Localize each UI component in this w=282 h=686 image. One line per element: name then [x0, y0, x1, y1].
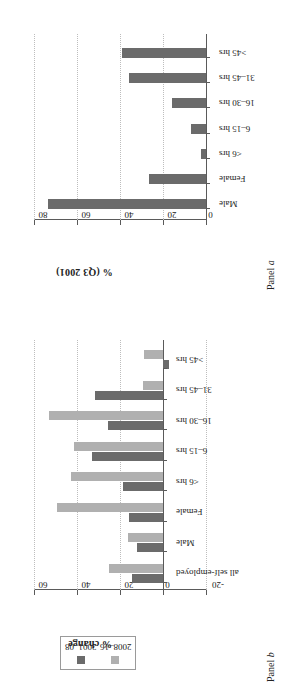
- x-tick: [163, 430, 167, 431]
- x-axis-label: 16–30 hrs: [176, 416, 212, 426]
- bar-group: 6–15 hrs: [34, 108, 206, 133]
- bar-group: all self-employed: [34, 553, 206, 584]
- x-axis-label: >45 hrs: [176, 355, 203, 365]
- bar-group: 16–30 hrs: [34, 83, 206, 108]
- bar-group: <6 hrs: [34, 134, 206, 159]
- y-tick: [34, 220, 35, 225]
- bar: [143, 381, 163, 390]
- x-axis-label: <6 hrs: [176, 477, 199, 487]
- bar: [122, 48, 206, 58]
- bar: [48, 199, 206, 209]
- bar: [144, 351, 163, 360]
- panel-a-y-axis-label: % (Q3 2001): [56, 267, 113, 278]
- panel-b-tag-prefix: Panel: [265, 657, 276, 682]
- bar: [129, 73, 206, 83]
- bar-group: 6–15 hrs: [34, 431, 206, 462]
- bar-group: 16–30 hrs: [34, 400, 206, 431]
- x-tick: [163, 399, 167, 400]
- x-axis-label: 31–45 hrs: [176, 386, 212, 396]
- x-axis-label: 6–15 hrs: [176, 447, 207, 457]
- y-tick: [34, 590, 35, 595]
- x-axis-label: Female: [219, 174, 246, 184]
- x-axis-label: >45 hrs: [219, 48, 246, 58]
- panel-b-plot-area: -200204060 all self-employedMaleFemale<6…: [34, 340, 206, 590]
- bar: [92, 452, 163, 461]
- x-tick: [163, 582, 167, 583]
- bar: [57, 503, 163, 512]
- panel-a-plot-area: 020406080 MaleFemale<6 hrs6–15 hrs16–30 …: [34, 34, 206, 220]
- x-axis-label: <6 hrs: [219, 149, 242, 159]
- panel-a-tag: Panel a: [265, 260, 276, 290]
- bar-group: >45 hrs: [34, 33, 206, 58]
- bar-group: Male: [34, 522, 206, 553]
- y-tick: [120, 590, 121, 595]
- bar: [95, 391, 163, 400]
- x-tick: [163, 460, 167, 461]
- x-axis-label: all self-employed: [176, 569, 239, 579]
- figure-container: 2001–08 2008–16 % change -200204060 all …: [0, 0, 282, 686]
- bar: [74, 442, 163, 451]
- panel-b-y-axis-label: % change: [68, 639, 112, 650]
- bar: [132, 574, 163, 583]
- x-tick: [206, 183, 210, 184]
- zero-axis: [206, 34, 207, 220]
- bar: [49, 412, 163, 421]
- x-tick: [163, 552, 167, 553]
- panel-a-tag-prefix: Panel: [265, 265, 276, 290]
- bar: [149, 174, 206, 184]
- y-tick-label: 0: [208, 210, 213, 220]
- x-tick: [206, 158, 210, 159]
- x-tick: [206, 133, 210, 134]
- bar: [108, 422, 163, 431]
- bar: [172, 98, 206, 108]
- x-axis-label: 31–45 hrs: [219, 73, 255, 83]
- bar-group: Male: [34, 184, 206, 209]
- legend-swatch-2001-08: [77, 656, 85, 664]
- bar: [109, 564, 163, 573]
- legend-swatch-2008-16: [111, 656, 119, 664]
- x-tick: [206, 82, 210, 83]
- x-tick: [163, 369, 167, 370]
- bar: [123, 483, 163, 492]
- bar-group: Female: [34, 492, 206, 523]
- panel-b-tag: Panel b: [265, 652, 276, 682]
- panel-a-bars: MaleFemale<6 hrs6–15 hrs16–30 hrs31–45 h…: [34, 34, 206, 219]
- panel-a: % (Q3 2001) 020406080 MaleFemale<6 hrs6–…: [0, 0, 282, 294]
- y-tick: [77, 220, 78, 225]
- x-axis-label: 16–30 hrs: [219, 98, 255, 108]
- x-axis-label: Male: [176, 538, 195, 548]
- x-tick: [206, 57, 210, 58]
- bar-group: 31–45 hrs: [34, 58, 206, 83]
- bar: [128, 534, 163, 543]
- x-tick: [163, 521, 167, 522]
- bar-group: 31–45 hrs: [34, 370, 206, 401]
- bar-group: <6 hrs: [34, 461, 206, 492]
- y-tick: [206, 220, 207, 225]
- bar: [137, 544, 163, 553]
- panel-b-tag-letter: b: [265, 652, 276, 657]
- x-tick: [206, 208, 210, 209]
- y-tick: [163, 590, 164, 595]
- x-axis-label: Female: [176, 508, 203, 518]
- panel-b: 2001–08 2008–16 % change -200204060 all …: [0, 294, 282, 686]
- x-axis-label: Male: [219, 199, 238, 209]
- gridline: [206, 340, 207, 590]
- bar: [191, 124, 206, 134]
- panel-b-bars: all self-employedMaleFemale<6 hrs6–15 hr…: [34, 340, 206, 589]
- x-tick: [163, 491, 167, 492]
- panel-a-tag-letter: a: [265, 260, 276, 265]
- y-tick: [206, 590, 207, 595]
- y-tick: [120, 220, 121, 225]
- y-tick: [163, 220, 164, 225]
- bar-group: >45 hrs: [34, 339, 206, 370]
- bar: [71, 473, 163, 482]
- bar: [129, 513, 163, 522]
- bar-group: Female: [34, 159, 206, 184]
- y-tick: [77, 590, 78, 595]
- x-axis-label: 6–15 hrs: [219, 124, 250, 134]
- x-tick: [206, 107, 210, 108]
- y-tick-label: -20: [212, 580, 224, 590]
